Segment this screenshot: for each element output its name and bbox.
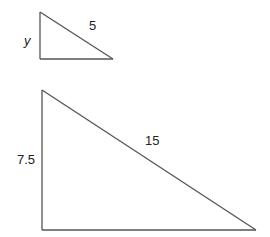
large-triangle-hypotenuse-label: 15 — [145, 133, 159, 148]
large-triangle-hypotenuse — [42, 90, 256, 230]
small-triangle-hypotenuse — [40, 12, 113, 59]
small-triangle-hypotenuse-label: 5 — [89, 18, 96, 33]
small-triangle: y 5 — [23, 12, 113, 59]
large-triangle-vertical-label: 7.5 — [17, 152, 35, 167]
small-triangle-vertical-label: y — [23, 33, 32, 48]
large-triangle: 7.5 15 — [17, 90, 256, 230]
similar-triangles-diagram: y 5 7.5 15 — [0, 0, 270, 237]
